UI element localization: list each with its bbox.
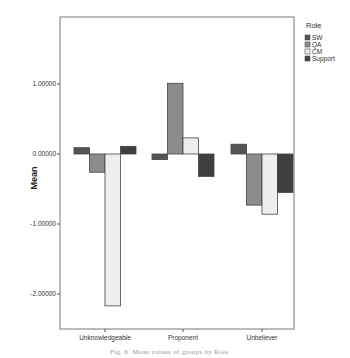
bar-cm-proponent [183,138,199,154]
x-tick-label: Unbeliever [246,334,278,341]
legend-label-cm: CM [312,48,322,55]
bar-qa-unknowledgeable [90,154,106,172]
legend-swatch-sw [305,35,310,40]
x-tick-label: Proponent [168,334,198,342]
bar-chart: 1.000000.00000-1.00000-2.00000 Unknowled… [0,0,350,358]
bar-sw-unknowledgeable [74,148,90,154]
y-tick-label: -2.00000 [30,290,56,297]
bar-support-proponent [199,154,215,176]
x-tick-label: Unknowledgeable [79,334,131,342]
legend-label-sw: SW [312,34,323,41]
figure-caption: Fig. 6. Mean values of groups by Role [110,348,350,356]
legend-swatch-qa [305,42,310,47]
y-axis-title: Mean [29,166,39,189]
legend-swatch-support [305,56,310,61]
bar-sw-unbeliever [231,144,247,154]
legend-swatch-cm [305,49,310,54]
bar-support-unbeliever [278,154,294,193]
x-axis: UnknowledgeableProponentUnbeliever [79,329,278,342]
bar-cm-unbeliever [262,154,278,214]
legend-title: Role [306,21,321,30]
legend-label-support: Support [312,55,335,63]
y-tick-label: 0.00000 [33,150,57,157]
legend: RoleSWQACMSupport [305,21,335,63]
bar-sw-proponent [152,154,168,160]
bar-qa-proponent [168,83,184,154]
bars-group [74,83,293,306]
bar-qa-unbeliever [247,154,263,205]
bar-cm-unknowledgeable [105,154,121,306]
bar-support-unknowledgeable [121,146,137,154]
y-tick-label: -1.00000 [30,220,56,227]
y-tick-label: 1.00000 [33,80,57,87]
